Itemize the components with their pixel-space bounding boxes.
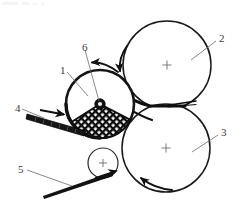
guide-roller bbox=[88, 148, 118, 178]
reference-label-1: 1 bbox=[60, 65, 66, 76]
reference-label-2: 2 bbox=[219, 33, 225, 44]
figure-drawing-canvas bbox=[0, 0, 245, 208]
lower-press-roller bbox=[122, 104, 210, 192]
reference-label-4: 4 bbox=[15, 103, 21, 114]
upper-press-roller bbox=[123, 21, 211, 109]
reference-label-3: 3 bbox=[221, 127, 227, 138]
technical-figure: 1 2 3 4 5 6 bbox=[0, 0, 245, 208]
reference-label-6: 6 bbox=[82, 42, 88, 53]
feed-direction-arrow bbox=[40, 110, 64, 115]
leader-line-5 bbox=[27, 170, 72, 186]
scan-artifacts bbox=[2, 2, 44, 5]
reference-label-5: 5 bbox=[18, 164, 24, 175]
outgoing-web bbox=[43, 171, 116, 199]
center-hub bbox=[95, 99, 105, 109]
